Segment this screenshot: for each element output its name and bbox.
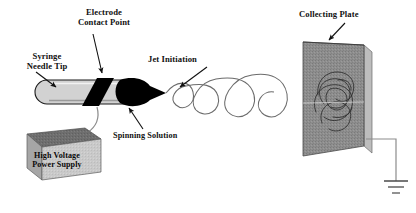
whipping-jet-spiral (166, 74, 287, 117)
electrospinning-diagram: Electrode Contact Point Syringe Needle T… (0, 0, 416, 213)
arrow-to-spinning-solution (129, 108, 143, 129)
label-syringe-needle-tip-line2: Needle Tip (8, 62, 86, 72)
label-electrode-contact-point-line2: Contact Point (56, 18, 152, 28)
label-jet-initiation: Jet Initiation (148, 55, 197, 65)
label-power-supply-line1: High Voltage (20, 151, 94, 160)
arrow-to-jet-initiation (180, 67, 207, 87)
arrow-to-electrode-contact-point (93, 34, 102, 73)
diagram-canvas (0, 0, 416, 213)
label-power-supply-line2: Power Supply (20, 160, 94, 169)
earth-ground-symbol (384, 181, 408, 193)
annotation-arrows (36, 23, 345, 129)
label-high-voltage-power-supply: High Voltage Power Supply (20, 151, 94, 169)
label-electrode-contact-point: Electrode Contact Point (56, 8, 152, 27)
collecting-plate (303, 42, 372, 156)
spinning-solution-droplet (116, 78, 167, 106)
arrow-to-collecting-plate (329, 23, 345, 40)
label-spinning-solution: Spinning Solution (113, 131, 177, 140)
label-collecting-plate: Collecting Plate (299, 10, 359, 20)
label-syringe-needle-tip: Syringe Needle Tip (8, 52, 86, 71)
